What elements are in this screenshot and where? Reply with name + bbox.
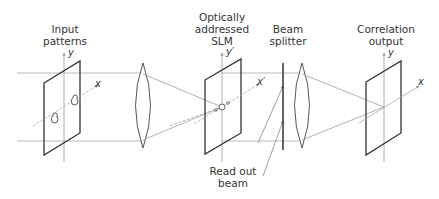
- slm-plane: [194, 53, 259, 162]
- slm-x-axis: [194, 84, 259, 124]
- output-x-axis-label: x: [418, 77, 424, 87]
- read-out-beam-arrows: [258, 86, 283, 176]
- fourier-lens-1: [136, 63, 151, 148]
- slm-label-line-2: addressed: [192, 23, 252, 35]
- input-patterns-label: Input patterns: [40, 23, 90, 47]
- correlation-output-label: Correlation output: [352, 23, 420, 47]
- output-label-line-2: output: [352, 35, 420, 47]
- slm-side-spot-left: [215, 109, 218, 112]
- slm-x-axis-label: x′: [257, 77, 265, 87]
- input-x-axis-label: x: [95, 79, 101, 89]
- converging-rays-1: [143, 74, 222, 140]
- input-pattern-shape-2: [71, 95, 78, 105]
- input-label-line-2: patterns: [40, 35, 90, 47]
- output-y-axis-label: y: [388, 48, 394, 58]
- output-label-line-1: Correlation: [352, 23, 420, 35]
- output-plane: [359, 53, 419, 162]
- slm-label-line-1: Optically: [192, 11, 252, 23]
- slm-center-spot: [219, 104, 225, 110]
- read-out-label-line-2: beam: [208, 177, 258, 189]
- input-y-axis-label: y: [68, 48, 74, 58]
- slm-label-line-3: SLM: [192, 35, 252, 47]
- input-plane: [33, 53, 98, 162]
- output-x-axis: [359, 86, 419, 123]
- read-out-beam-label: Read out beam: [208, 165, 258, 189]
- slm-label: Optically addressed SLM: [192, 11, 252, 47]
- converging-rays-2: [302, 74, 384, 140]
- beam-splitter-label: Beam splitter: [268, 23, 308, 47]
- slm-side-spot-right: [227, 102, 230, 105]
- slm-y-axis-label: y′: [226, 47, 234, 57]
- beam-splitter-label-line-1: Beam: [268, 23, 308, 35]
- read-out-label-line-1: Read out: [208, 165, 258, 177]
- input-x-axis: [33, 85, 98, 126]
- input-label-line-1: Input: [40, 23, 90, 35]
- beam-splitter-label-line-2: splitter: [268, 35, 308, 47]
